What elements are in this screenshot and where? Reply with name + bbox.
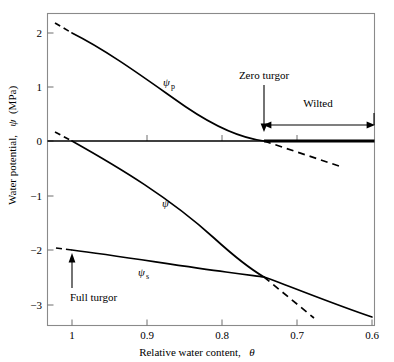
curve-label-psi: ψ xyxy=(162,197,169,209)
curve-psi-p-extrapolation-lower xyxy=(264,141,342,167)
hofler-diagram-figure: 2 1 0 −1 −2 −3 1 0.9 0.8 0.7 0.6 xyxy=(0,0,394,362)
y-tick-label-0: 0 xyxy=(37,135,43,147)
y-axis-tick-labels: 2 1 0 −1 −2 −3 xyxy=(30,27,42,311)
curve-psi-s xyxy=(72,250,372,317)
x-axis-title-main: Relative water content, xyxy=(139,346,241,358)
curve-label-psi-s-subscript: s xyxy=(146,272,149,281)
annotation-full-turgor: Full turgor xyxy=(69,253,118,303)
x-axis-title: Relative water content, θ xyxy=(139,346,255,358)
full-turgor-arrowhead xyxy=(69,253,76,262)
y-axis-ticks xyxy=(48,33,54,305)
curve-label-psi-p: ψ p xyxy=(163,76,175,91)
x-tick-label-0-6: 0.6 xyxy=(365,329,379,341)
curve-label-psi-p-subscript: p xyxy=(171,82,175,91)
y-axis-title-symbol: ψ xyxy=(6,119,18,126)
zero-turgor-label: Zero turgor xyxy=(239,69,290,81)
curve-label-psi-s-symbol: ψ xyxy=(138,266,145,278)
curve-label-psi-s: ψ s xyxy=(138,266,149,281)
chart-canvas: 2 1 0 −1 −2 −3 1 0.9 0.8 0.7 0.6 xyxy=(0,0,394,362)
y-axis-title-main: Water potential, xyxy=(6,135,18,205)
y-tick-label-neg3: −3 xyxy=(30,299,42,311)
curve-psi xyxy=(72,141,264,277)
curve-psi-s-extrapolation-left xyxy=(56,248,72,250)
x-tick-label-0-9: 0.9 xyxy=(140,329,154,341)
curve-psi-extrapolation-upper xyxy=(55,132,72,141)
x-axis-tick-labels: 1 0.9 0.8 0.7 0.6 xyxy=(69,329,379,341)
x-tick-label-1-0: 1 xyxy=(69,329,75,341)
x-axis-title-symbol: θ xyxy=(249,346,255,358)
curve-psi-extrapolation-lower xyxy=(264,277,314,318)
plot-frame xyxy=(48,14,375,326)
y-axis-title: Water potential, ψ (MPa) xyxy=(6,86,19,205)
curve-label-psi-p-symbol: ψ xyxy=(163,76,170,88)
y-tick-label-neg1: −1 xyxy=(30,190,42,202)
wilted-label: Wilted xyxy=(303,97,333,109)
curve-label-psi-symbol: ψ xyxy=(162,197,169,209)
y-axis-title-units: (MPa) xyxy=(6,86,19,114)
x-tick-label-0-8: 0.8 xyxy=(215,329,229,341)
x-axis-ticks xyxy=(72,320,372,326)
curve-psi-p-extrapolation-upper xyxy=(55,23,72,33)
y-tick-label-2: 2 xyxy=(37,27,43,39)
annotation-wilted: Wilted xyxy=(263,97,375,128)
y-tick-label-1: 1 xyxy=(37,81,43,93)
annotation-zero-turgor: Zero turgor xyxy=(239,69,290,132)
full-turgor-label: Full turgor xyxy=(70,291,118,303)
y-tick-label-neg2: −2 xyxy=(30,244,42,256)
x-tick-label-0-7: 0.7 xyxy=(290,329,304,341)
